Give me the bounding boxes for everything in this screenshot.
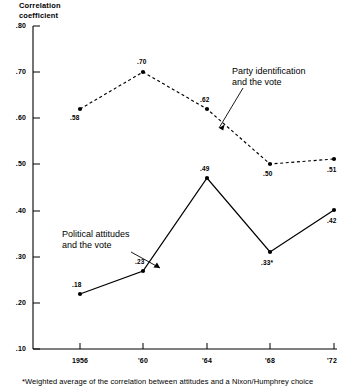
- y-tick-label-4: .40: [6, 207, 26, 214]
- y-tick-label-5: .30: [6, 253, 26, 260]
- value-label-attitudes-1956: .18: [72, 281, 81, 288]
- value-label-party-1972: .51: [327, 166, 336, 173]
- y-tick-label-6: .20: [6, 299, 26, 306]
- y-tick-label-2: .60: [6, 114, 26, 121]
- plot-svg: [0, 0, 341, 387]
- y-tick-label-1: .70: [6, 68, 26, 75]
- x-axis-ticks: [80, 343, 334, 349]
- value-label-party-1960: .70: [137, 58, 146, 65]
- value-label-party-1968: .50: [263, 170, 272, 177]
- x-tick-label-64: '64: [187, 357, 227, 364]
- series-annotation-political-attitudes: Political attitudes and the vote: [62, 229, 130, 251]
- x-tick-label-72: '72: [312, 357, 341, 364]
- value-label-party-1964: .62: [200, 96, 209, 103]
- value-label-attitudes-1964: .49: [200, 165, 209, 172]
- correlation-coefficient-chart: Correlation coefficient: [0, 0, 341, 387]
- x-tick-label-68: '68: [250, 357, 290, 364]
- y-tick-label-7: .10: [6, 345, 26, 352]
- value-label-attitudes-1960: .23: [135, 258, 144, 265]
- x-tick-label-60: '60: [123, 357, 163, 364]
- chart-footnote: *Weighted average of the correlation bet…: [22, 377, 313, 386]
- x-tick-label-1956: 1956: [60, 357, 100, 364]
- value-label-party-1956: .58: [70, 114, 79, 121]
- value-label-attitudes-1968: .33*: [261, 259, 273, 266]
- leader-arrow-party-identification: [219, 124, 225, 130]
- value-label-attitudes-1972: .42: [327, 217, 336, 224]
- series-annotation-party-identification: Party identification and the vote: [232, 66, 306, 88]
- y-axis-ticks: [33, 26, 40, 349]
- leader-line-party-identification: [219, 88, 243, 128]
- plot-area: .80 .70 .60 .50 .40 .30 .20 .10 1956 '60…: [0, 0, 341, 387]
- y-tick-label-0: .80: [6, 22, 26, 29]
- y-tick-label-3: .50: [6, 160, 26, 167]
